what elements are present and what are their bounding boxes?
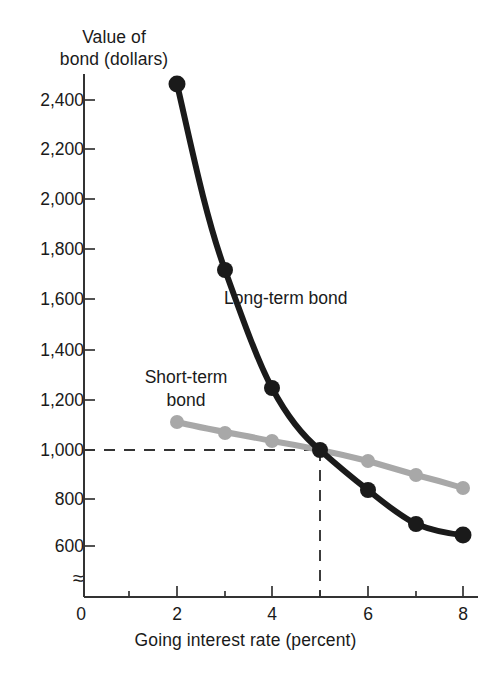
x-axis-title: Going interest rate (percent) bbox=[0, 630, 491, 651]
bond-value-vs-interest-rate-chart: Value of bond (dollars) 2,400 2,200 2,00… bbox=[0, 0, 491, 678]
series-line-long-term-bond bbox=[177, 84, 463, 535]
y-axis-ticks bbox=[84, 100, 95, 546]
x-axis-ticks bbox=[129, 586, 463, 597]
chart-plot-area bbox=[0, 0, 491, 678]
